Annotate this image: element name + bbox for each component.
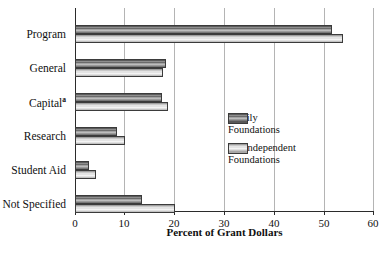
- category-label-research: Research: [24, 130, 66, 142]
- legend: Family Foundations All Independent Found…: [228, 112, 358, 172]
- category-axis-labels: Program General Capitala Research Studen…: [0, 8, 70, 212]
- bar-not-specified-all-independent-foundations: [75, 204, 175, 213]
- bar-program-family-foundations: [75, 25, 332, 34]
- plot-area: 0 10 20 30 40 50 60: [75, 8, 374, 212]
- category-label-program: Program: [26, 28, 66, 40]
- category-label-general: General: [30, 62, 66, 74]
- bar-chart: Program General Capitala Research Studen…: [0, 0, 385, 265]
- bar-research-all-independent-foundations: [75, 136, 125, 145]
- gridline-60: [373, 8, 374, 211]
- x-axis-title: Percent of Grant Dollars: [75, 226, 374, 238]
- category-label-capital: Capitala: [29, 95, 66, 109]
- bar-capital-family-foundations: [75, 93, 162, 102]
- category-label-capital-text: Capital: [29, 97, 62, 109]
- legend-entry-family-foundations: Family Foundations: [228, 112, 358, 135]
- legend-entry-all-independent-foundations: All Independent Foundations: [228, 142, 358, 165]
- tick-30: [224, 211, 225, 215]
- bar-capital-all-independent-foundations: [75, 102, 168, 111]
- bar-program-all-independent-foundations: [75, 34, 343, 43]
- bar-student-aid-all-independent-foundations: [75, 170, 96, 179]
- legend-swatch-family-foundations: [228, 113, 248, 124]
- tick-60: [373, 211, 374, 215]
- category-label-not-specified: Not Specified: [2, 198, 66, 210]
- bar-not-specified-family-foundations: [75, 195, 142, 204]
- category-label-student-aid: Student Aid: [11, 164, 66, 176]
- bar-research-family-foundations: [75, 127, 117, 136]
- bar-general-family-foundations: [75, 59, 166, 68]
- bar-general-all-independent-foundations: [75, 68, 163, 77]
- bar-student-aid-family-foundations: [75, 161, 89, 170]
- capital-footnote-marker: a: [62, 95, 66, 104]
- tick-40: [274, 211, 275, 215]
- tick-50: [324, 211, 325, 215]
- legend-swatch-all-independent-foundations: [228, 143, 248, 154]
